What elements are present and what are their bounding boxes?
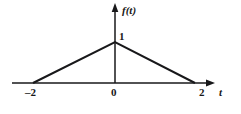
y-axis-label: f(t) [122,5,136,16]
x-tick-label-two: 2 [199,87,205,98]
triangular-waveform-figure: f(t) 1 –2 0 2 t [0,0,241,114]
triangular-pulse-curve [33,42,195,83]
x-tick-label-zero: 0 [111,87,117,98]
x-tick-label-minus-2: –2 [25,87,36,98]
peak-value-label: 1 [119,31,125,42]
x-axis-arrowhead-icon [206,80,215,87]
y-axis-arrowhead-icon [112,3,119,12]
x-axis-label: t [219,87,222,98]
